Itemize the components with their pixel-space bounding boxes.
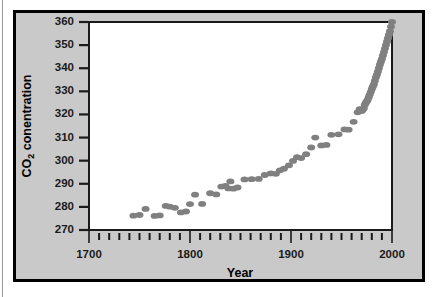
chart-page: 270280290300310320330340350360 170018001…: [0, 0, 440, 297]
x-axis-group: 1700180019002000: [76, 231, 405, 260]
data-points-group: [129, 19, 396, 219]
data-point: [186, 201, 194, 207]
y-axis-title-text: CO2 conentration: [20, 75, 36, 178]
data-point: [311, 135, 319, 141]
x-tick-label-2000: 2000: [379, 248, 405, 260]
y-axis-title-rest: conentration: [20, 75, 34, 154]
y-tick-label-300: 300: [55, 154, 74, 166]
y-tick-label-320: 320: [55, 107, 74, 119]
data-point: [307, 145, 315, 151]
data-point: [322, 142, 330, 148]
data-point: [241, 176, 249, 182]
data-point: [198, 201, 206, 207]
y-tick-label-350: 350: [55, 38, 74, 50]
y-tick-marks: [79, 22, 88, 230]
y-tick-label-310: 310: [55, 131, 74, 143]
data-point: [350, 119, 358, 125]
data-point: [388, 19, 396, 25]
y-axis-group: 270280290300310320330340350360: [55, 15, 88, 235]
data-point: [248, 176, 256, 182]
data-point: [327, 132, 335, 138]
y-axis-title: CO2 conentration: [20, 75, 36, 178]
x-axis-title: Year: [227, 266, 254, 280]
y-tick-labels: 270280290300310320330340350360: [55, 15, 74, 235]
data-point: [191, 192, 199, 198]
data-point: [212, 192, 220, 198]
data-point: [171, 205, 179, 211]
y-tick-label-270: 270: [55, 223, 74, 235]
y-axis-title-main: CO: [20, 158, 34, 177]
y-tick-label-340: 340: [55, 61, 74, 73]
x-tick-label-1800: 1800: [177, 248, 203, 260]
y-tick-label-290: 290: [55, 177, 74, 189]
data-point: [233, 185, 241, 191]
data-point: [156, 213, 164, 219]
y-tick-label-360: 360: [55, 15, 74, 27]
data-point: [302, 151, 310, 157]
data-point: [136, 212, 144, 218]
data-point: [182, 209, 190, 215]
chart-svg: 270280290300310320330340350360 170018001…: [0, 0, 440, 297]
data-point: [345, 127, 353, 133]
data-point: [226, 179, 234, 185]
data-point: [142, 206, 150, 212]
x-tick-labels: 1700180019002000: [76, 248, 405, 260]
y-tick-label-280: 280: [55, 200, 74, 212]
data-point: [334, 131, 342, 137]
data-point: [255, 176, 263, 182]
y-tick-label-330: 330: [55, 84, 74, 96]
x-minor-tick-marks: [99, 233, 382, 240]
x-tick-label-1900: 1900: [278, 248, 304, 260]
x-tick-label-1700: 1700: [76, 248, 102, 260]
